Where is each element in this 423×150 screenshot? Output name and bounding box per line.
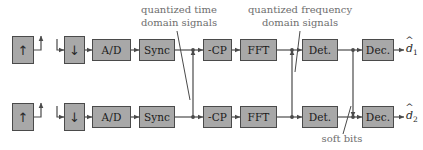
caption-freq-domain: quantized frequency domain signals: [226, 4, 374, 29]
junction-dot-freq-bottom: [290, 115, 294, 119]
caption-line-2: domain signals: [226, 17, 374, 30]
output-index: 2: [413, 115, 418, 124]
block-label: Sync: [144, 112, 170, 123]
receive-antenna-2: ↓: [64, 103, 85, 131]
block-label: FFT: [248, 112, 270, 123]
caption-line-1: quantized time: [120, 4, 238, 17]
block-ad-2[interactable]: A/D: [92, 106, 131, 128]
leader-time-domain: [177, 31, 190, 100]
block-ad-1[interactable]: A/D: [92, 39, 131, 61]
block-label: A/D: [102, 45, 122, 56]
junction-dot-soft-top: [351, 48, 355, 52]
rx2-lead: [57, 106, 61, 117]
junction-dot-time-bottom: [191, 115, 195, 119]
receiver-block-diagram: ↑ ↓ A/D Sync -CP FFT Det. Dec. d1 ↑ ↓ A/…: [0, 0, 423, 150]
transmit-antenna-2: ↑: [12, 103, 34, 131]
block-label: Det.: [309, 45, 332, 56]
block-label: Dec.: [366, 112, 390, 123]
caption-soft-bits: soft bits: [306, 133, 378, 146]
block-det-2[interactable]: Det.: [302, 106, 338, 128]
block-fft-2[interactable]: FFT: [240, 106, 277, 128]
leader-freq-domain: [295, 31, 300, 72]
output-base: d: [406, 42, 413, 55]
transmit-antenna-1: ↑: [12, 36, 34, 64]
rx1-lead: [57, 39, 61, 50]
block-dec-2[interactable]: Dec.: [362, 106, 394, 128]
block-cp-2[interactable]: -CP: [203, 106, 232, 128]
caption-time-domain: quantized time domain signals: [120, 4, 238, 29]
output-label-1: d1: [406, 42, 418, 57]
tx2-lead: [34, 106, 41, 117]
block-det-1[interactable]: Det.: [302, 39, 338, 61]
block-label: FFT: [248, 45, 270, 56]
block-sync-1[interactable]: Sync: [139, 39, 175, 61]
block-label: A/D: [102, 112, 122, 123]
caption-line-2: domain signals: [120, 17, 238, 30]
output-index: 1: [413, 48, 418, 57]
junction-dot-soft-bottom: [351, 115, 355, 119]
block-label: Det.: [309, 112, 332, 123]
block-fft-1[interactable]: FFT: [240, 39, 277, 61]
block-cp-1[interactable]: -CP: [203, 39, 232, 61]
down-arrow-icon: ↓: [69, 43, 80, 58]
junction-dot-time-top: [191, 48, 195, 52]
block-sync-2[interactable]: Sync: [139, 106, 175, 128]
output-label-2: d2: [406, 109, 418, 124]
up-arrow-icon: ↑: [18, 110, 29, 125]
block-label: Sync: [144, 45, 170, 56]
block-label: Dec.: [366, 45, 390, 56]
caption-line-1: soft bits: [306, 133, 378, 146]
output-base: d: [406, 109, 413, 122]
tx1-lead: [34, 39, 41, 50]
down-arrow-icon: ↓: [69, 110, 80, 125]
block-dec-1[interactable]: Dec.: [362, 39, 394, 61]
receive-antenna-1: ↓: [64, 36, 85, 64]
block-label: -CP: [208, 45, 227, 56]
caption-line-1: quantized frequency: [226, 4, 374, 17]
junction-dot-freq-top: [290, 48, 294, 52]
up-arrow-icon: ↑: [18, 43, 29, 58]
block-label: -CP: [208, 112, 227, 123]
leader-soft-bits: [343, 106, 351, 134]
